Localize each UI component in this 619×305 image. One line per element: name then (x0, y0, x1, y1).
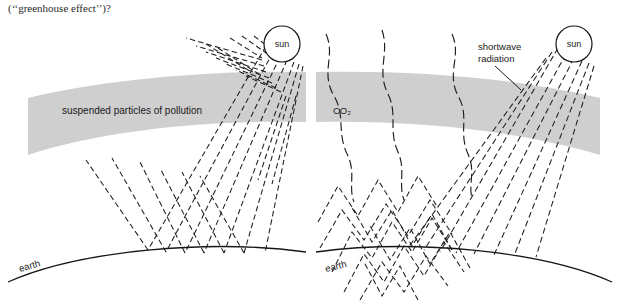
page-caption: (‘‘greenhouse effect’’)? (8, 2, 111, 15)
shortwave-label-line1: shortwave (478, 41, 521, 52)
greenhouse-effect-diagram: (‘‘greenhouse effect’’)? suspended parti… (0, 0, 619, 305)
sun-label: sun (567, 39, 582, 49)
co2-band-label: CO₂ (333, 105, 351, 116)
sun-icon: sun (264, 26, 300, 62)
pollution-band-label: suspended particles of pollution (62, 105, 202, 116)
sun-icon: sun (556, 26, 592, 62)
sun-label: sun (275, 39, 290, 49)
diagram-stage: (‘‘greenhouse effect’’)? suspended parti… (0, 0, 619, 305)
shortwave-label-line2: radiation (478, 53, 514, 64)
